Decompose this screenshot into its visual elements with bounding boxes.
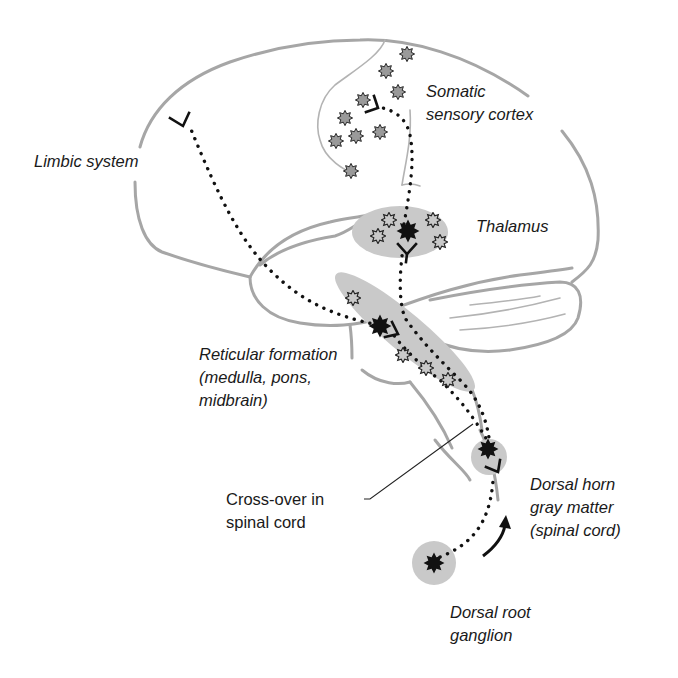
label-line: sensory cortex [426,105,534,123]
label-line: (medulla, pons, [199,368,312,386]
label-line: Dorsal root [450,603,532,621]
label-thalamus: Thalamus [476,217,548,235]
label-line: spinal cord [226,513,306,531]
label-line: Somatic [426,82,486,100]
arrow-icon [483,515,511,556]
label-line: Cross-over in [226,490,324,508]
black-neurons [369,220,499,574]
synapse-terminals [170,96,500,472]
label-line: Limbic system [34,152,139,170]
label-line: Thalamus [476,217,548,235]
pain-pathway-diagram: Somatic sensory cortex Limbic system Tha… [0,0,678,678]
label-line: midbrain) [199,391,268,409]
label-line: Reticular formation [199,345,337,363]
cross-over-leader-line [364,424,473,499]
label-limbic-system: Limbic system [34,152,139,170]
gray-neurons [328,46,414,178]
label-dorsal-root-ganglion: Dorsal root ganglion [450,603,532,644]
limbic-synapse [170,113,189,126]
label-cross-over: Cross-over in spinal cord [226,490,324,531]
label-line: Dorsal horn [530,475,615,493]
label-line: ganglion [450,626,512,644]
label-dorsal-horn: Dorsal horn gray matter (spinal cord) [530,475,621,539]
label-line: (spinal cord) [530,521,621,539]
label-line: gray matter [530,498,615,516]
label-reticular-formation: Reticular formation (medulla, pons, midb… [199,345,337,409]
